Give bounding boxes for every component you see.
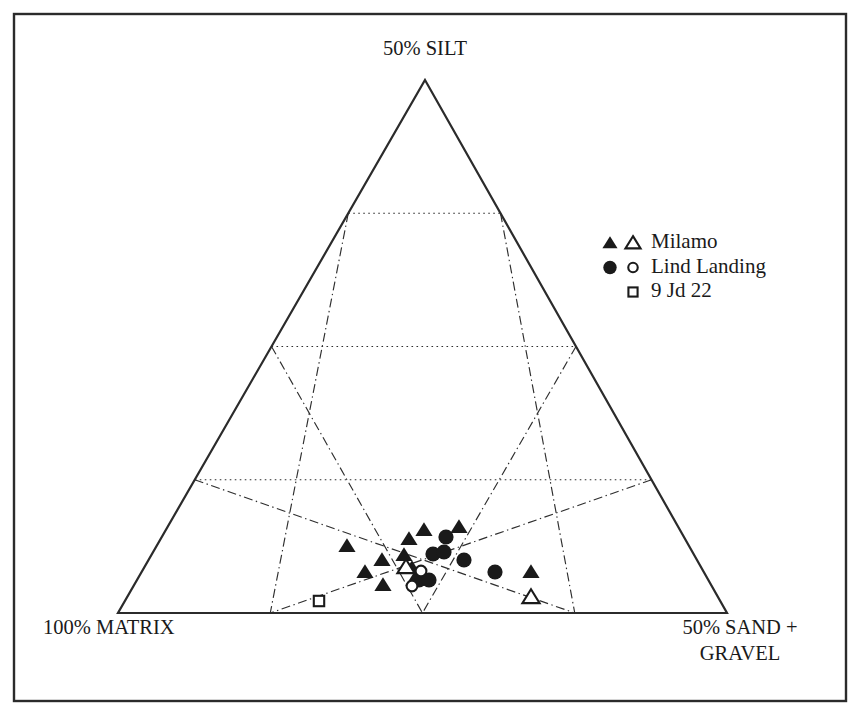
marker-filled-circle [438,529,453,544]
legend-label: 9 Jd 22 [651,278,712,302]
marker-filled-circle [436,544,451,559]
ternary-grid [195,213,652,613]
scatter-points-layer [314,519,540,606]
marker-open-circle [416,566,427,577]
marker-filled-circle [487,564,502,579]
marker-filled-triangle [602,236,617,248]
marker-filled-triangle [522,564,539,578]
figure-border [14,14,846,701]
marker-filled-triangle [415,522,432,536]
axis-label-top: 50% SILT [383,37,468,59]
marker-filled-triangle [450,519,467,533]
marker-filled-triangle [338,538,355,552]
axis-label-bottom-right-line1: 50% SAND + [682,616,797,638]
legend-item[interactable]: Lind Landing [603,254,766,278]
axis-label-bottom-left: 100% MATRIX [43,616,175,638]
marker-filled-triangle [395,547,412,561]
marker-open-circle [628,263,638,273]
diagram-canvas: 50% SILT 100% MATRIX 50% SAND + GRAVEL M… [0,0,863,719]
legend: MilamoLind Landing9 Jd 22 [602,229,766,302]
legend-label: Milamo [651,229,718,253]
marker-filled-circle [603,261,616,274]
marker-filled-triangle [356,564,373,578]
marker-open-circle [407,581,418,592]
axis-label-bottom-right-line2: GRAVEL [700,642,781,664]
ternary-diagram-figure: 50% SILT 100% MATRIX 50% SAND + GRAVEL M… [0,0,863,719]
marker-open-triangle [625,236,640,248]
marker-filled-triangle [374,577,391,591]
marker-filled-triangle [373,552,390,566]
legend-item[interactable]: 9 Jd 22 [628,278,711,302]
marker-filled-circle [456,552,471,567]
marker-filled-triangle [400,531,417,545]
marker-open-square [314,596,324,606]
legend-item[interactable]: Milamo [602,229,717,253]
series-9-jd-22 [314,596,324,606]
marker-open-square [628,287,637,296]
legend-label: Lind Landing [651,254,766,278]
